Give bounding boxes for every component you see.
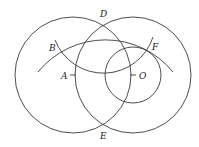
geometry-diagram: D B F A O E — [0, 0, 199, 147]
label-o: O — [139, 71, 147, 81]
label-a: A — [60, 71, 68, 81]
label-e: E — [99, 131, 107, 141]
label-b: B — [48, 43, 56, 53]
label-f: F — [151, 42, 159, 52]
arc-center-d — [55, 37, 153, 73]
label-d: D — [99, 9, 107, 19]
